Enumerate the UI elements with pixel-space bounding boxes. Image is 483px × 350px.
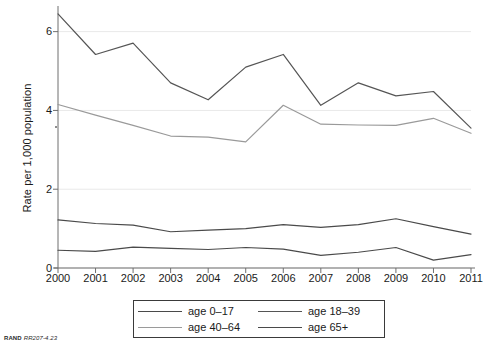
series-line — [58, 219, 471, 234]
legend-label: age 18–39 — [308, 305, 360, 317]
x-tick-label: 2009 — [384, 272, 408, 284]
x-tick-label: 2000 — [46, 272, 70, 284]
plot-area — [58, 8, 471, 268]
legend-entry: age 18–39 — [258, 305, 378, 317]
legend: age 0–17age 18–39age 40–64age 65+ — [133, 300, 385, 338]
legend-label: age 0–17 — [188, 305, 234, 317]
legend-label: age 40–64 — [188, 321, 240, 333]
x-tick-label: 2011 — [459, 272, 483, 284]
plot-canvas — [58, 8, 471, 268]
legend-label: age 65+ — [308, 321, 348, 333]
x-axis-tick-labels: 2000200120022003200420052006200720082009… — [58, 272, 471, 288]
scan-speck — [55, 126, 57, 128]
x-tick-label: 2006 — [271, 272, 295, 284]
y-tick-label: 2 — [26, 184, 52, 195]
x-tick-label: 2004 — [196, 272, 220, 284]
y-axis-tick-labels: 6420 — [22, 8, 52, 268]
x-tick-label: 2008 — [346, 272, 370, 284]
y-tick-label: 4 — [26, 105, 52, 116]
legend-line-swatch — [138, 311, 182, 312]
x-tick-label: 2007 — [309, 272, 333, 284]
x-tick-label: 2001 — [83, 272, 107, 284]
series-line — [58, 247, 471, 260]
x-tick-label: 2005 — [233, 272, 257, 284]
x-tick-label: 2002 — [121, 272, 145, 284]
y-tick-label: 6 — [26, 26, 52, 37]
legend-line-swatch — [138, 327, 182, 328]
footer-brand: RAND — [4, 335, 22, 341]
legend-entry: age 40–64 — [138, 321, 258, 333]
legend-entry: age 65+ — [258, 321, 378, 333]
figure-source-note: RANDRR207-4.23 — [4, 334, 57, 342]
x-tick-label: 2003 — [158, 272, 182, 284]
legend-line-swatch — [258, 311, 302, 312]
legend-line-swatch — [258, 327, 302, 328]
series-line — [58, 14, 471, 128]
footer-reference: RR207-4.23 — [22, 335, 57, 341]
legend-entry: age 0–17 — [138, 305, 258, 317]
x-tick-label: 2010 — [421, 272, 445, 284]
